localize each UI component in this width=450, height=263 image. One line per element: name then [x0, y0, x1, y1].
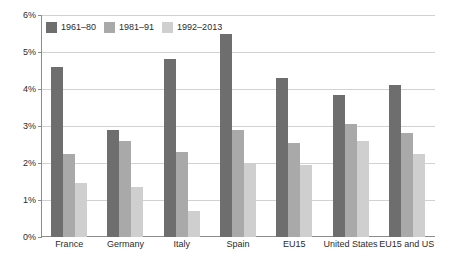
legend-item[interactable]: 1992–2013 — [162, 22, 222, 33]
legend-label: 1992–2013 — [177, 23, 222, 32]
chart-legend: 1961–801981–911992–2013 — [44, 21, 224, 34]
bar[interactable] — [107, 130, 119, 237]
x-axis-tick-label: Germany — [97, 240, 153, 250]
x-axis-tick-label: Spain — [210, 240, 266, 250]
bar[interactable] — [232, 130, 244, 237]
bar[interactable] — [300, 165, 312, 237]
bar[interactable] — [119, 141, 131, 237]
y-axis-tick-label: 5% — [6, 48, 36, 57]
bar[interactable] — [345, 124, 357, 237]
x-axis-tick-label: France — [41, 240, 97, 250]
bar[interactable] — [276, 78, 288, 237]
bar[interactable] — [401, 133, 413, 237]
x-axis-tick-label: EU15 — [266, 240, 322, 250]
y-axis-tick-label: 0% — [6, 233, 36, 242]
bar[interactable] — [357, 141, 369, 237]
y-axis: 0%1%2%3%4%5%6% — [0, 15, 36, 237]
y-axis-tick-label: 6% — [6, 11, 36, 20]
bar[interactable] — [244, 163, 256, 237]
x-axis-tick-label: Italy — [154, 240, 210, 250]
bar-chart: 0%1%2%3%4%5%6% FranceGermanyItalySpainEU… — [0, 0, 450, 263]
legend-label: 1981–91 — [119, 23, 154, 32]
y-axis-tick-label: 3% — [6, 122, 36, 131]
bar-groups — [41, 15, 435, 237]
bar[interactable] — [63, 154, 75, 237]
bar[interactable] — [389, 85, 401, 237]
bar-group — [379, 15, 435, 237]
bar[interactable] — [333, 95, 345, 237]
bar[interactable] — [131, 187, 143, 237]
bar[interactable] — [75, 183, 87, 237]
legend-label: 1961–80 — [61, 23, 96, 32]
legend-item[interactable]: 1961–80 — [46, 22, 96, 33]
bar[interactable] — [51, 67, 63, 237]
y-axis-tick-label: 2% — [6, 159, 36, 168]
bar[interactable] — [188, 211, 200, 237]
bar[interactable] — [164, 59, 176, 237]
bar-group — [41, 15, 97, 237]
bar[interactable] — [176, 152, 188, 237]
legend-swatch-icon — [104, 22, 115, 33]
bar[interactable] — [220, 34, 232, 238]
legend-swatch-icon — [46, 22, 57, 33]
legend-swatch-icon — [162, 22, 173, 33]
bar-group — [210, 15, 266, 237]
y-axis-tick-label: 1% — [6, 196, 36, 205]
bar-group — [154, 15, 210, 237]
bar-group — [97, 15, 153, 237]
x-axis-tick-label: United States — [322, 240, 378, 250]
y-axis-tick — [38, 237, 42, 238]
bar[interactable] — [413, 154, 425, 237]
legend-item[interactable]: 1981–91 — [104, 22, 154, 33]
bar-group — [266, 15, 322, 237]
y-axis-tick-label: 4% — [6, 85, 36, 94]
x-axis: FranceGermanyItalySpainEU15United States… — [41, 240, 435, 250]
bar[interactable] — [288, 143, 300, 237]
x-axis-tick-label: EU15 and US — [379, 240, 435, 250]
bar-group — [322, 15, 378, 237]
